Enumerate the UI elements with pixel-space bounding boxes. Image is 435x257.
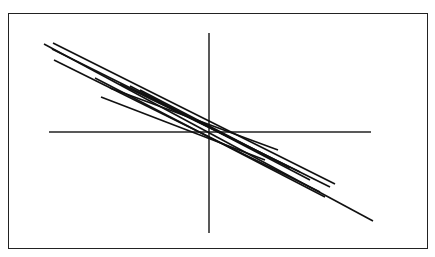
series-line-5	[101, 97, 265, 160]
series-line-2	[53, 43, 335, 184]
series-line-8	[130, 86, 310, 180]
series-line-10	[95, 78, 325, 197]
series-line-9	[140, 90, 290, 168]
regression-lines-plot	[0, 0, 435, 257]
